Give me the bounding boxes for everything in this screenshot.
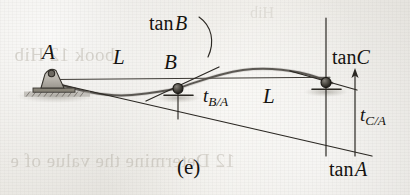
deviation-b-subscript: B/A <box>208 94 228 109</box>
elastic-curve-halo <box>55 69 332 96</box>
label-tangent-c: tanC <box>332 46 370 69</box>
roller-support-c <box>312 78 341 90</box>
label-tangent-a-point: A <box>355 158 367 180</box>
label-deviation-b-over-a: tB/A <box>203 85 228 110</box>
label-tangent-b: tan B <box>149 12 187 35</box>
label-span-2: L <box>263 84 275 109</box>
label-deviation-c-over-a: tC/A <box>360 104 386 129</box>
deviation-c-subscript: C/A <box>365 113 386 128</box>
tan-b-leader-arc <box>199 17 212 57</box>
figure-caption: (e) <box>177 155 200 180</box>
label-point-b: B <box>164 50 177 75</box>
label-span-1: L <box>113 45 125 70</box>
beam-deflection-figure: book 12 Hib 12 Determine the value of e … <box>0 0 410 195</box>
label-tangent-a: tan A <box>329 158 367 181</box>
label-tangent-b-point: B <box>175 12 187 34</box>
label-point-a: A <box>42 40 55 65</box>
pin-support-a <box>24 69 90 96</box>
label-tangent-c-point: C <box>356 46 369 68</box>
